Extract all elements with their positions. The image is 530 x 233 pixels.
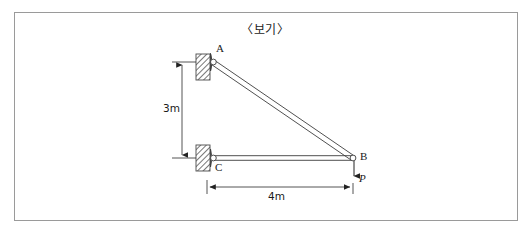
support-C xyxy=(196,145,212,171)
dimension-vertical-label: 3m xyxy=(163,102,180,114)
member-AB-edge-1 xyxy=(214,60,354,156)
joint-label-C: C xyxy=(215,161,222,173)
support-A xyxy=(196,54,212,81)
support-A-wall-hatch xyxy=(196,54,210,80)
member-AB-edge-2 xyxy=(212,65,352,161)
member-AB xyxy=(212,60,354,161)
joint-B-pin xyxy=(350,155,356,161)
truss-diagram xyxy=(0,0,530,233)
joint-A-pin xyxy=(211,59,217,65)
figure-container: 〈보기〉 xyxy=(0,0,530,233)
joint-label-A: A xyxy=(216,42,224,54)
member-CB xyxy=(213,156,353,161)
dimension-horizontal-label: 4m xyxy=(268,190,285,202)
joint-label-B: B xyxy=(360,150,367,162)
load-label-P: P xyxy=(359,172,366,184)
support-C-wall-hatch xyxy=(196,145,210,171)
